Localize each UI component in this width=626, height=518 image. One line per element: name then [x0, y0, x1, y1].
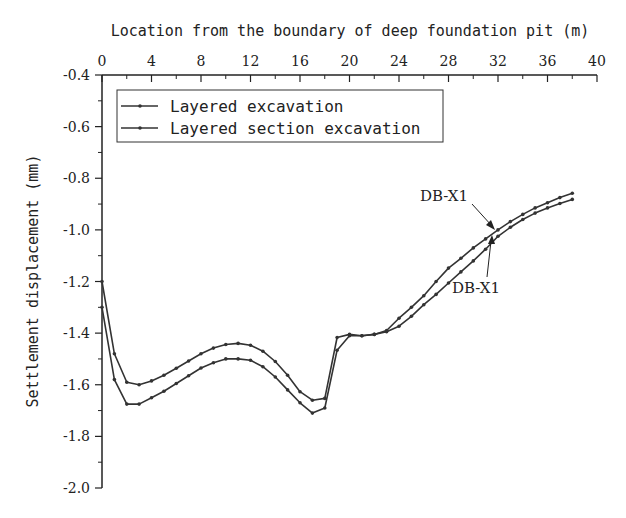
y-axis-title: Settlement displacement (mm)	[24, 155, 42, 408]
data-point-marker	[199, 366, 203, 370]
data-point-marker	[274, 375, 278, 379]
series-line-1	[102, 193, 572, 400]
data-point-marker	[360, 334, 364, 338]
data-point-marker	[286, 388, 290, 392]
data-point-marker	[335, 348, 339, 352]
data-point-marker	[472, 246, 476, 250]
data-point-marker	[298, 401, 302, 405]
data-point-marker	[311, 411, 315, 415]
data-point-marker	[571, 191, 575, 195]
y-tick-label: -1.4	[63, 325, 90, 341]
data-point-marker	[533, 206, 537, 210]
data-point-marker	[447, 281, 451, 285]
y-tick-label: -1.8	[63, 428, 90, 444]
y-tick-label: -0.4	[63, 67, 90, 83]
data-point-marker	[484, 247, 488, 251]
data-point-marker	[224, 343, 228, 347]
data-point-marker	[100, 306, 104, 310]
data-point-marker	[459, 270, 463, 274]
series-line-0	[102, 199, 572, 413]
x-tick-label: 0	[98, 53, 107, 69]
x-tick-label: 12	[242, 53, 260, 69]
data-point-marker	[533, 211, 537, 215]
data-point-marker	[249, 344, 253, 348]
data-point-marker	[236, 342, 240, 346]
data-point-marker	[100, 280, 104, 284]
y-tick-label: -0.6	[63, 119, 90, 135]
y-tick-label: -1.6	[63, 377, 90, 393]
data-point-marker	[558, 196, 562, 200]
data-point-marker	[199, 352, 203, 356]
data-point-marker	[496, 235, 500, 239]
data-point-marker	[472, 259, 476, 263]
data-point-marker	[348, 333, 352, 337]
legend-marker-icon-0	[138, 104, 142, 108]
data-point-marker	[212, 361, 216, 365]
data-point-marker	[150, 379, 154, 383]
data-point-marker	[298, 390, 302, 394]
annotation-label-upper: DB-X1	[420, 187, 468, 205]
data-point-marker	[137, 402, 141, 406]
data-point-marker	[558, 202, 562, 206]
settlement-chart: Location from the boundary of deep found…	[0, 0, 626, 518]
x-tick-label: 20	[341, 53, 359, 69]
y-tick-label: -0.8	[63, 170, 90, 186]
data-point-marker	[175, 382, 179, 386]
data-point-marker	[571, 198, 575, 202]
data-point-marker	[521, 218, 525, 222]
data-point-marker	[434, 293, 438, 297]
data-point-marker	[113, 352, 117, 356]
data-point-marker	[509, 220, 513, 224]
y-axis-ticks: -0.4-0.6-0.8-1.0-1.2-1.4-1.6-1.8-2.0	[63, 67, 102, 496]
x-tick-label: 24	[390, 53, 408, 69]
data-point-marker	[410, 306, 414, 310]
annotation-lower: DB-X1	[452, 235, 500, 297]
y-tick-label: -2.0	[63, 480, 90, 496]
y-tick-label: -1.0	[63, 222, 90, 238]
data-point-marker	[175, 366, 179, 370]
data-point-marker	[484, 237, 488, 241]
data-point-marker	[125, 380, 129, 384]
data-point-marker	[397, 324, 401, 328]
data-point-marker	[187, 374, 191, 378]
data-point-marker	[162, 389, 166, 393]
legend: Layered excavation Layered section excav…	[117, 90, 443, 142]
data-point-marker	[422, 294, 426, 298]
x-tick-label: 32	[489, 53, 507, 69]
data-point-marker	[249, 358, 253, 362]
x-tick-label: 28	[440, 53, 458, 69]
data-point-marker	[162, 373, 166, 377]
data-point-marker	[496, 228, 500, 232]
data-point-marker	[397, 316, 401, 320]
data-point-marker	[187, 359, 191, 363]
data-point-marker	[224, 357, 228, 361]
data-point-marker	[546, 201, 550, 205]
legend-label-0: Layered excavation	[170, 97, 343, 116]
data-point-marker	[410, 315, 414, 319]
data-point-marker	[137, 383, 141, 387]
data-point-marker	[274, 360, 278, 364]
data-point-marker	[447, 266, 451, 270]
data-point-marker	[212, 346, 216, 350]
data-point-marker	[509, 226, 513, 230]
x-axis-title: Location from the boundary of deep found…	[111, 22, 590, 40]
series-layer	[100, 191, 574, 415]
x-tick-label: 8	[197, 53, 206, 69]
annotation-upper: DB-X1	[420, 187, 495, 230]
data-point-marker	[373, 333, 377, 337]
data-point-marker	[459, 257, 463, 261]
data-point-marker	[521, 213, 525, 217]
data-point-marker	[422, 303, 426, 307]
y-tick-label: -1.2	[63, 274, 90, 290]
data-point-marker	[385, 329, 389, 333]
data-point-marker	[434, 280, 438, 284]
data-point-marker	[236, 357, 240, 361]
x-tick-label: 40	[588, 53, 606, 69]
x-axis-ticks: 0481216202428323640	[98, 53, 606, 82]
x-tick-label: 36	[539, 53, 557, 69]
data-point-marker	[323, 397, 327, 401]
data-point-marker	[311, 398, 315, 402]
x-tick-label: 4	[147, 53, 156, 69]
x-tick-label: 16	[291, 53, 309, 69]
data-point-marker	[113, 378, 117, 382]
